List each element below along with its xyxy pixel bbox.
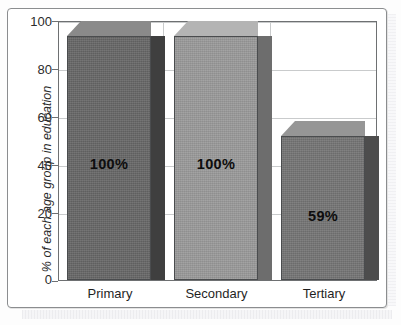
y-axis-title-wrapper: % of each age group in education — [18, 25, 38, 265]
plot-area: 100% 100% 59% — [58, 21, 377, 281]
bar-secondary-side-face — [258, 36, 272, 280]
category-label-secondary: Secondary — [163, 286, 270, 301]
bar-primary-top-face — [67, 21, 151, 36]
bar-tertiary-top-face — [281, 121, 365, 136]
bar-tertiary-side-face — [365, 136, 379, 280]
bar-label-primary: 100% — [67, 156, 151, 172]
scanned-page-background: 100 80 60 40 20 0 % of each age group in… — [0, 0, 401, 325]
scan-artifact-right — [388, 14, 396, 306]
category-label-tertiary: Tertiary — [271, 286, 377, 301]
y-axis-title: % of each age group in education — [40, 64, 54, 294]
bar-label-tertiary: 59% — [281, 208, 365, 224]
bar-secondary-top-face — [174, 21, 258, 36]
bar-primary-side-face — [151, 36, 165, 280]
category-label-primary: Primary — [58, 286, 162, 301]
scan-artifact-bottom — [22, 310, 392, 319]
bar-label-secondary: 100% — [174, 156, 258, 172]
